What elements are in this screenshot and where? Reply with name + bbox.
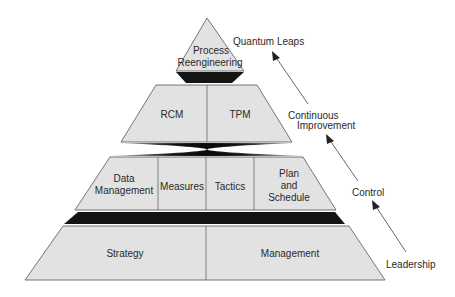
arrow-up-3-icon bbox=[372, 200, 380, 210]
arrow-up-1-icon bbox=[272, 51, 280, 61]
rcm-label: RCM bbox=[161, 109, 184, 120]
tpm-label: TPM bbox=[229, 109, 250, 120]
arrow-up-2-line bbox=[329, 139, 358, 181]
leadership-label: Leadership bbox=[386, 259, 436, 270]
schedule-label: Schedule bbox=[268, 192, 310, 203]
strategy-label: Strategy bbox=[106, 248, 143, 259]
tactics-label: Tactics bbox=[215, 181, 246, 192]
pyramid-diagram: Process Reengineering RCM TPM Data Manag… bbox=[0, 0, 455, 297]
process-label: Process bbox=[193, 45, 229, 56]
tier-base: Strategy Management bbox=[25, 226, 385, 280]
improvement-label: Improvement bbox=[297, 120, 356, 131]
arrow-up-2-icon bbox=[326, 134, 334, 144]
measures-label: Measures bbox=[160, 181, 204, 192]
tier-second: RCM TPM bbox=[121, 85, 292, 142]
tier-top: Process Reengineering bbox=[176, 18, 244, 83]
management-label: Management bbox=[261, 248, 320, 259]
base-tier-shape bbox=[25, 226, 385, 280]
annotation-leadership: Leadership bbox=[386, 259, 436, 270]
quantum-leaps-label: Quantum Leaps bbox=[233, 36, 304, 47]
management-sub-label: Management bbox=[95, 185, 154, 196]
control-label: Control bbox=[352, 187, 384, 198]
reengineering-label: Reengineering bbox=[177, 57, 242, 68]
plan-label: Plan bbox=[279, 168, 299, 179]
tier-third: Data Management Measures Tactics Plan an… bbox=[75, 157, 336, 210]
arrow-up-1-line bbox=[275, 56, 308, 104]
top-dark-band bbox=[176, 72, 244, 83]
and-label: and bbox=[281, 180, 298, 191]
arrow-up-3-line bbox=[375, 205, 406, 252]
data-label: Data bbox=[113, 173, 135, 184]
second-tier-shape bbox=[121, 85, 292, 142]
base-dark-band bbox=[64, 212, 345, 224]
